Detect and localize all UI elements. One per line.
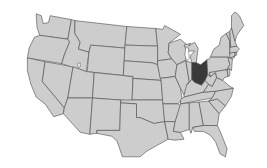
state-florida: Florida bbox=[193, 126, 227, 157]
state-north-dakota: North Dakota bbox=[125, 27, 158, 47]
state-arizona: Arizona bbox=[63, 98, 92, 134]
states-layer: WashingtonOregonCaliforniaNevadaIdahoMon… bbox=[27, 12, 243, 157]
state-kansas: Kansas bbox=[132, 78, 163, 100]
state-wyoming: Wyoming bbox=[87, 45, 125, 75]
state-rhode-island: Rhode Island bbox=[235, 52, 237, 56]
state-new-mexico: New Mexico bbox=[90, 98, 121, 134]
state-colorado: Colorado bbox=[93, 73, 134, 101]
us-states-map: WashingtonOregonCaliforniaNevadaIdahoMon… bbox=[0, 0, 267, 168]
